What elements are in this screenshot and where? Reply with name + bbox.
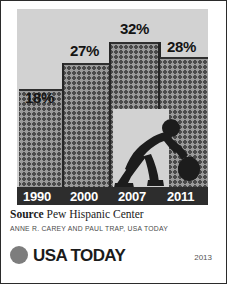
- infographic-frame: 18% 27% 32% 28%: [0, 0, 227, 284]
- crossing-person-silhouette: [113, 113, 205, 189]
- usa-today-circle-icon: [10, 246, 28, 264]
- source-value: Pew Hispanic Center: [47, 208, 144, 220]
- year-axis-band: 1990 2000 2007 2011: [17, 187, 208, 205]
- brand-row: USA TODAY 2013: [10, 244, 218, 268]
- value-label-2007: 32%: [120, 20, 149, 37]
- bar-cap-2011: [160, 57, 208, 59]
- usa-today-wordmark: USA TODAY: [33, 246, 125, 266]
- year-label-2000: 2000: [70, 189, 98, 204]
- value-label-1990: 18%: [25, 89, 54, 106]
- credit-line: ANNE R. CAREY AND PAUL TRAP, USA TODAY: [10, 225, 215, 232]
- value-label-2011: 28%: [167, 38, 196, 55]
- source-label: Source: [10, 208, 44, 220]
- bar-2000: [64, 63, 110, 187]
- bar-chart-plot: 18% 27% 32% 28%: [17, 9, 208, 205]
- year-label-1990: 1990: [23, 189, 51, 204]
- year-stamp: 2013: [194, 253, 212, 262]
- value-label-2000: 27%: [70, 42, 99, 59]
- year-label-2007: 2007: [118, 189, 146, 204]
- bar-cap-2007: [111, 42, 159, 44]
- chart-panel: 18% 27% 32% 28%: [17, 9, 208, 205]
- year-label-2011: 2011: [167, 189, 194, 204]
- source-line: Source Pew Hispanic Center: [10, 208, 210, 220]
- bar-cap-2000: [64, 63, 110, 65]
